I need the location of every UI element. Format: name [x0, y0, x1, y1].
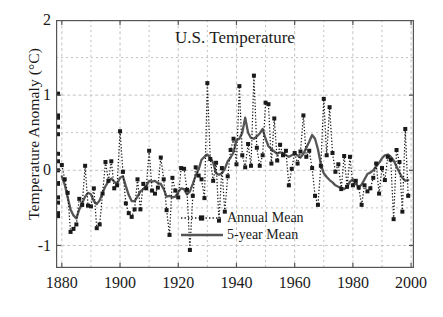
x-tick-label: 2000: [395, 275, 427, 291]
x-tick-label: 1940: [221, 275, 253, 291]
legend-swatch-five-year-mean: [180, 229, 224, 241]
y-tick-label: 2: [43, 12, 51, 28]
x-tick-label: 1920: [162, 275, 194, 291]
legend-label-five-year-mean: 5-year Mean: [227, 227, 298, 244]
chart-legend: Annual Mean 5-year Mean: [180, 210, 304, 243]
legend-label-annual-mean: Annual Mean: [227, 210, 304, 227]
x-tick-label: 1960: [279, 275, 311, 291]
legend-swatch-annual-mean: [180, 212, 224, 224]
x-tick-label: 1980: [337, 275, 369, 291]
legend-item-five-year-mean: 5-year Mean: [180, 227, 304, 244]
legend-item-annual-mean: Annual Mean: [180, 210, 304, 227]
x-tick-label: 1900: [104, 275, 136, 291]
y-tick-label: 0: [43, 162, 51, 178]
plot-area: 210-1 1880190019201940196019802000 U.S. …: [56, 20, 414, 268]
y-axis-label: Temperature Anomaly (°C): [25, 14, 43, 254]
chart-figure: Temperature Anomaly (°C) 210-1 188019001…: [0, 0, 443, 317]
y-tick-label: -1: [38, 238, 51, 254]
y-tick-label: 1: [43, 87, 51, 103]
x-tick-label: 1880: [46, 275, 78, 291]
